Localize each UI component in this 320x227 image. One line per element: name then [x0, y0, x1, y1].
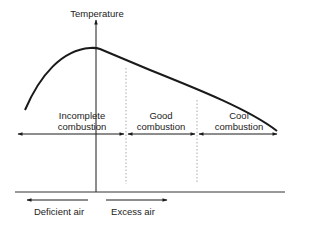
- zone-label-good: Good combustion: [126, 110, 196, 132]
- zone-label-good-line1: Good: [126, 110, 196, 121]
- zone-label-good-line2: combustion: [126, 121, 196, 132]
- zone-label-cool-line1: Cool: [204, 110, 274, 121]
- zone-label-cool-line2: combustion: [204, 121, 274, 132]
- zone-label-incomplete-line1: Incomplete: [46, 110, 118, 121]
- zone-label-incomplete: Incomplete combustion: [46, 110, 118, 132]
- zone-label-incomplete-line2: combustion: [46, 121, 118, 132]
- zone-label-cool: Cool combustion: [204, 110, 274, 132]
- y-axis-label: Temperature: [70, 8, 124, 19]
- excess-air-label: Excess air: [106, 206, 160, 217]
- deficient-air-label: Deficient air: [28, 206, 90, 217]
